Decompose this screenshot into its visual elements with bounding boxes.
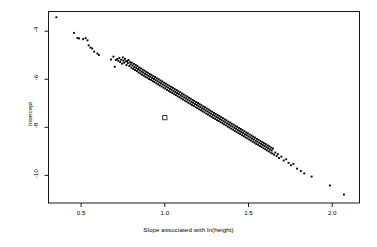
data-point (186, 101, 188, 103)
data-point (131, 62, 133, 64)
data-point (165, 83, 167, 85)
data-point (190, 98, 192, 100)
data-point (267, 147, 269, 149)
data-point (258, 142, 260, 144)
data-point (265, 146, 267, 148)
data-point (159, 85, 161, 87)
data-point (73, 32, 75, 34)
data-point (223, 123, 225, 125)
data-point (180, 98, 182, 100)
data-point (241, 134, 243, 136)
data-point (220, 116, 222, 118)
data-point (162, 84, 164, 86)
data-point (258, 139, 260, 141)
data-point (209, 110, 211, 112)
data-point (214, 118, 216, 120)
data-point (221, 122, 223, 124)
data-point (292, 163, 294, 165)
x-tick-label-2.0: 2.0 (318, 209, 346, 216)
data-point (223, 120, 225, 122)
data-point (176, 89, 178, 91)
data-point (254, 142, 256, 144)
data-point (141, 74, 143, 76)
data-point (116, 58, 118, 60)
data-point (139, 69, 141, 71)
data-point (195, 106, 197, 108)
data-point (145, 76, 147, 78)
data-point (262, 147, 264, 149)
data-point (225, 119, 227, 121)
data-point (239, 130, 241, 132)
data-point (205, 110, 207, 112)
data-point (158, 81, 160, 83)
data-point (121, 63, 123, 65)
data-point (163, 82, 165, 84)
data-point (122, 56, 124, 58)
data-point (238, 127, 240, 129)
data-point (187, 99, 189, 101)
data-point (254, 137, 256, 139)
data-point (129, 61, 131, 63)
data-point (242, 129, 244, 131)
data-point (253, 139, 255, 141)
data-point (149, 73, 151, 75)
data-point (113, 56, 115, 58)
data-point (242, 132, 244, 134)
data-point (202, 105, 204, 107)
data-point (276, 155, 278, 157)
data-point (183, 93, 185, 95)
data-point (167, 87, 169, 89)
data-point (232, 129, 234, 131)
data-point (290, 164, 292, 166)
y-tick-label--4: -4 (31, 23, 38, 37)
data-point (247, 132, 249, 134)
data-point (256, 141, 258, 143)
data-point (230, 125, 232, 127)
data-point (252, 136, 254, 138)
data-point (236, 126, 238, 128)
data-point (255, 140, 257, 142)
data-point (179, 91, 181, 93)
data-point (255, 143, 257, 145)
data-point (199, 103, 201, 105)
data-point (203, 108, 205, 110)
data-point (114, 66, 116, 68)
data-point (262, 144, 264, 146)
data-point (145, 71, 147, 73)
data-point (224, 118, 226, 120)
data-point (288, 162, 290, 164)
data-point (218, 120, 220, 122)
data-point (219, 118, 221, 120)
data-point (183, 97, 185, 99)
data-point (87, 39, 89, 41)
data-point (181, 95, 183, 97)
data-point (154, 76, 156, 78)
data-point (248, 135, 250, 137)
data-point (225, 124, 227, 126)
data-point (117, 60, 119, 62)
data-point (157, 80, 159, 82)
data-point (118, 57, 120, 59)
data-point (157, 83, 159, 85)
data-point (138, 67, 140, 69)
data-point (227, 126, 229, 128)
data-point (273, 154, 275, 156)
x-axis-title: Slope associated with ln(height) (0, 226, 377, 233)
data-point (177, 95, 179, 97)
data-point (226, 123, 228, 125)
data-point (230, 128, 232, 130)
data-point (211, 116, 213, 118)
data-point (264, 145, 266, 147)
data-point (204, 106, 206, 108)
data-point (165, 86, 167, 88)
data-point (170, 86, 172, 88)
data-point (240, 131, 242, 133)
data-point (172, 87, 174, 89)
data-point (132, 65, 134, 67)
data-point (300, 170, 302, 172)
data-point (214, 115, 216, 117)
data-point (178, 93, 180, 95)
data-point (93, 51, 95, 53)
data-point (173, 90, 175, 92)
data-point (137, 68, 139, 70)
